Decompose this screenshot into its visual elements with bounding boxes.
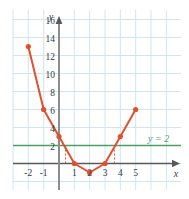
hline-label: y = 2 xyxy=(147,133,169,144)
data-point xyxy=(133,107,138,112)
y-tick-label: 14 xyxy=(46,34,56,44)
data-point xyxy=(26,44,31,49)
x-tick-label: 1 xyxy=(72,168,77,178)
x-tick-label: -2 xyxy=(24,168,32,178)
data-point xyxy=(118,134,123,139)
y-tick-labels: 16 14 12 10 8 6 4 2 xyxy=(46,16,56,152)
x-tick-label: 2 xyxy=(87,168,92,178)
x-axis-label: x xyxy=(173,168,179,179)
y-axis-label: y xyxy=(48,11,54,22)
y-tick-label: 6 xyxy=(50,106,55,116)
chart-canvas: 16 14 12 10 8 6 4 2 -2 -1 1 2 3 4 5 y x … xyxy=(0,0,189,199)
x-tick-label: 4 xyxy=(118,168,123,178)
x-tick-label: -1 xyxy=(40,168,48,178)
data-point xyxy=(102,161,107,166)
y-tick-label: 4 xyxy=(50,124,55,134)
x-tick-label: 5 xyxy=(133,168,138,178)
x-axis xyxy=(13,160,180,167)
parabola-chart-figure: 16 14 12 10 8 6 4 2 -2 -1 1 2 3 4 5 y x … xyxy=(0,0,189,199)
data-point xyxy=(56,134,61,139)
x-tick-label: 3 xyxy=(103,168,108,178)
data-point xyxy=(72,161,77,166)
y-tick-label: 10 xyxy=(46,70,56,80)
data-point xyxy=(41,107,46,112)
y-tick-label: 2 xyxy=(50,142,55,152)
x-tick-labels: -2 -1 1 2 3 4 5 xyxy=(24,168,138,178)
y-tick-label: 8 xyxy=(50,88,55,98)
y-tick-label: 12 xyxy=(46,52,56,62)
